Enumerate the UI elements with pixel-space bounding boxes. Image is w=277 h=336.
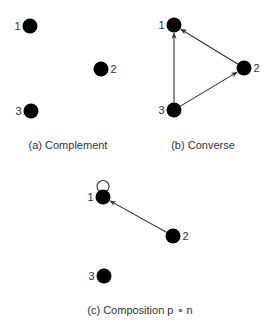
caption-b: (b) Converse (171, 139, 235, 151)
node-1 (96, 190, 111, 205)
panel-c: 123(c) Composition p ∘ n (87, 181, 192, 317)
relation-diagrams: 123(a) Complement123(b) Converse123(c) C… (0, 0, 277, 336)
node-label-3: 3 (88, 270, 94, 282)
node-label-2: 2 (254, 62, 260, 74)
node-label-1: 1 (158, 19, 164, 31)
node-1 (23, 19, 38, 34)
node-label-1: 1 (14, 20, 20, 32)
node-2 (166, 229, 181, 244)
node-label-1: 1 (87, 191, 93, 203)
panel-a: 123(a) Complement (14, 19, 116, 152)
edge-2-to-1 (110, 201, 166, 232)
node-3 (97, 269, 112, 284)
node-3 (24, 104, 39, 119)
node-label-3: 3 (158, 104, 164, 116)
node-label-2: 2 (183, 230, 189, 242)
node-label-2: 2 (111, 63, 117, 75)
node-1 (167, 18, 182, 33)
node-2 (237, 61, 252, 76)
caption-a: (a) Complement (29, 139, 108, 151)
panel-b: 123(b) Converse (158, 18, 259, 152)
edge-2-to-1 (181, 29, 238, 64)
node-3 (167, 103, 182, 118)
edge-3-to-2 (180, 72, 237, 106)
node-2 (94, 62, 109, 77)
node-label-3: 3 (15, 105, 21, 117)
caption-c: (c) Composition p ∘ n (87, 304, 192, 316)
